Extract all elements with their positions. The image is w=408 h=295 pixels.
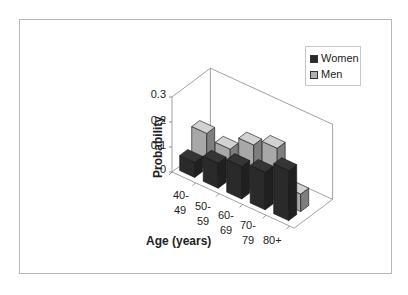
legend: Women Men xyxy=(305,46,361,86)
x-tick-80plus: 80+ xyxy=(263,233,282,248)
x-tick-line: 70- xyxy=(240,218,256,233)
x-tick-line: 60- xyxy=(218,208,234,223)
x-tick-line: 40- xyxy=(173,188,189,203)
x-axis-label: Age (years) xyxy=(146,234,211,248)
y-tick-0.3: 0.3 xyxy=(142,88,166,100)
x-tick-line: 50- xyxy=(195,199,211,214)
x-tick-mark xyxy=(263,215,266,218)
x-tick-mark xyxy=(193,183,196,186)
y-tick-0: 0 xyxy=(142,163,166,175)
x-tick-70-79: 70- 79 xyxy=(240,218,256,248)
bar-women-4 xyxy=(274,158,297,221)
x-tick-40-49: 40- 49 xyxy=(173,188,189,218)
x-tick-60-69: 60- 69 xyxy=(218,208,234,238)
x-tick-line: 59 xyxy=(195,214,211,229)
x-tick-line: 69 xyxy=(218,223,234,238)
legend-label-men: Men xyxy=(321,68,342,80)
legend-item-men: Men xyxy=(310,68,342,80)
bar-women-1 xyxy=(203,150,226,188)
plot-area xyxy=(0,0,408,295)
x-tick-50-59: 50- 59 xyxy=(195,199,211,229)
x-tick-line: 49 xyxy=(173,203,189,218)
legend-item-women: Women xyxy=(310,52,359,64)
bar-women-2 xyxy=(227,154,250,199)
bar-women-3 xyxy=(250,159,273,209)
x-tick-mark xyxy=(287,226,290,229)
legend-label-women: Women xyxy=(321,52,359,64)
y-tick-0.2: 0.2 xyxy=(142,114,166,126)
x-tick-line: 80+ xyxy=(263,233,282,248)
x-tick-mark xyxy=(216,194,219,197)
x-tick-mark xyxy=(240,204,243,207)
x-tick-mark xyxy=(169,172,172,175)
axis-line xyxy=(172,68,210,97)
x-tick-line: 79 xyxy=(240,233,256,248)
men-swatch-icon xyxy=(310,71,318,79)
women-swatch-icon xyxy=(310,55,318,63)
y-tick-0.1: 0.1 xyxy=(142,139,166,151)
